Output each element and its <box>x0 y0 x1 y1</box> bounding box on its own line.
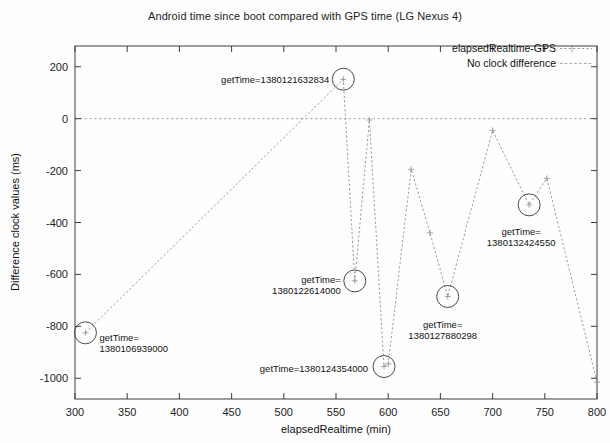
chart-canvas: Android time since boot compared with GP… <box>0 0 610 443</box>
y-tick-label: -800 <box>46 320 68 332</box>
x-tick-label: 500 <box>275 406 293 418</box>
annotation-label: 1380122614000 <box>272 285 341 296</box>
x-tick-label: 750 <box>536 406 554 418</box>
x-axis-title: elapsedRealtime (min) <box>281 423 391 435</box>
x-tick-label: 400 <box>170 406 188 418</box>
y-tick-label: -400 <box>46 217 68 229</box>
x-tick-label: 350 <box>118 406 136 418</box>
x-tick-label: 300 <box>66 406 84 418</box>
annotation-label: 1380127880298 <box>408 330 477 341</box>
chart-svg: 2000-200-400-600-800-1000 30035040045050… <box>0 0 610 443</box>
annotation-label: getTime=1380124354000 <box>260 363 368 374</box>
legend-item-elapsedrealtime-gps: elapsedRealtime-GPS <box>452 42 556 54</box>
y-tick-label: 200 <box>50 61 68 73</box>
x-tick-label: 800 <box>588 406 606 418</box>
x-tick-label: 600 <box>379 406 397 418</box>
annotation-label: getTime= <box>99 332 139 343</box>
x-tick-label: 450 <box>222 406 240 418</box>
annotation-label: 1380106939000 <box>99 343 168 354</box>
x-tick-label: 700 <box>483 406 501 418</box>
legend-item-no-clock-difference: No clock difference <box>467 57 556 69</box>
x-tick-label: 650 <box>431 406 449 418</box>
y-axis-title: Difference clock values (ms) <box>9 153 21 291</box>
y-tick-label: -600 <box>46 268 68 280</box>
annotation-label: getTime= <box>301 274 341 285</box>
y-tick-label: 0 <box>62 113 68 125</box>
y-tick-label: -200 <box>46 165 68 177</box>
y-tick-label: -1000 <box>40 372 68 384</box>
annotation-label: 1380132424550 <box>487 237 556 248</box>
annotation-label: getTime= <box>501 226 541 237</box>
annotation-label: getTime= <box>423 319 463 330</box>
x-tick-label: 550 <box>327 406 345 418</box>
annotation-label: getTime=1380121632834 <box>221 74 329 85</box>
